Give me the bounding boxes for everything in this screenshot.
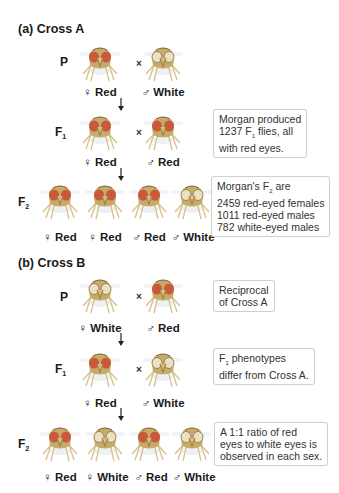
cross-b-f2-label-4: ♂ White [164,471,224,483]
cross-symbol: × [136,364,142,375]
cross-b-f1-male-white-fly-icon [143,350,183,388]
arrow-down-icon [116,408,126,422]
cross-b-f2-note: A 1:1 ratio of red eyes to white eyes is… [214,422,328,466]
cross-a-f1-gen-label: F1 [55,125,66,140]
cross-b-f2-female-red-fly-icon [40,424,80,462]
arrow-down-icon [116,168,126,182]
cross-b-title: (b) Cross B [18,256,85,270]
cross-a-f2-female-red-fly-icon [85,182,125,220]
cross-a-f1-male-label: ♂ Red [133,156,193,168]
cross-b-p-gen-label: P [60,290,68,304]
cross-a-p-female-red-fly-icon [80,44,120,82]
arrow-down-icon [116,333,126,347]
cross-a-f1-female-red-fly-icon [80,113,120,151]
cross-b-f1-note: F1 phenotypes differ from Cross A. [213,348,315,385]
cross-b-f2-male-red-fly-icon [129,424,169,462]
cross-symbol: × [136,127,142,138]
cross-symbol: × [136,291,142,302]
cross-a-f2-gen-label: F2 [18,195,29,210]
cross-a-f2-female-red-fly-icon [40,182,80,220]
cross-b-p-male-red-fly-icon [143,276,183,314]
cross-a-f1-female-label: ♀ Red [70,156,130,168]
cross-a-f2-note: Morgan's F2 are 2459 red-eyed females 10… [211,176,330,237]
cross-a-f1-note: Morgan produced 1237 F1 flies, all with … [213,109,307,158]
cross-b-f2-gen-label: F2 [18,437,29,452]
cross-b-p-male-label: ♂ Red [133,322,193,334]
cross-b-f1-gen-label: F1 [55,362,66,377]
cross-b-f1-female-red-fly-icon [80,350,120,388]
cross-a-f2-male-white-fly-icon [172,182,212,220]
cross-b-p-note: Reciprocal of Cross A [213,280,275,312]
cross-b-p-female-white-fly-icon [80,276,120,314]
cross-b-f1-male-label: ♂ White [133,397,193,409]
arrow-down-icon [116,98,126,112]
cross-a-f1-male-red-fly-icon [143,113,183,151]
cross-a-p-female-label: ♀ Red [70,86,130,98]
cross-a-f2-male-red-fly-icon [129,182,169,220]
cross-b-f2-female-white-fly-icon [85,424,125,462]
cross-b-f2-male-white-fly-icon [172,424,212,462]
cross-symbol: × [136,58,142,69]
cross-a-title: (a) Cross A [18,22,84,36]
cross-a-p-male-label: ♂ White [133,86,193,98]
cross-a-p-gen-label: P [60,55,68,69]
cross-a-p-male-white-fly-icon [143,44,183,82]
